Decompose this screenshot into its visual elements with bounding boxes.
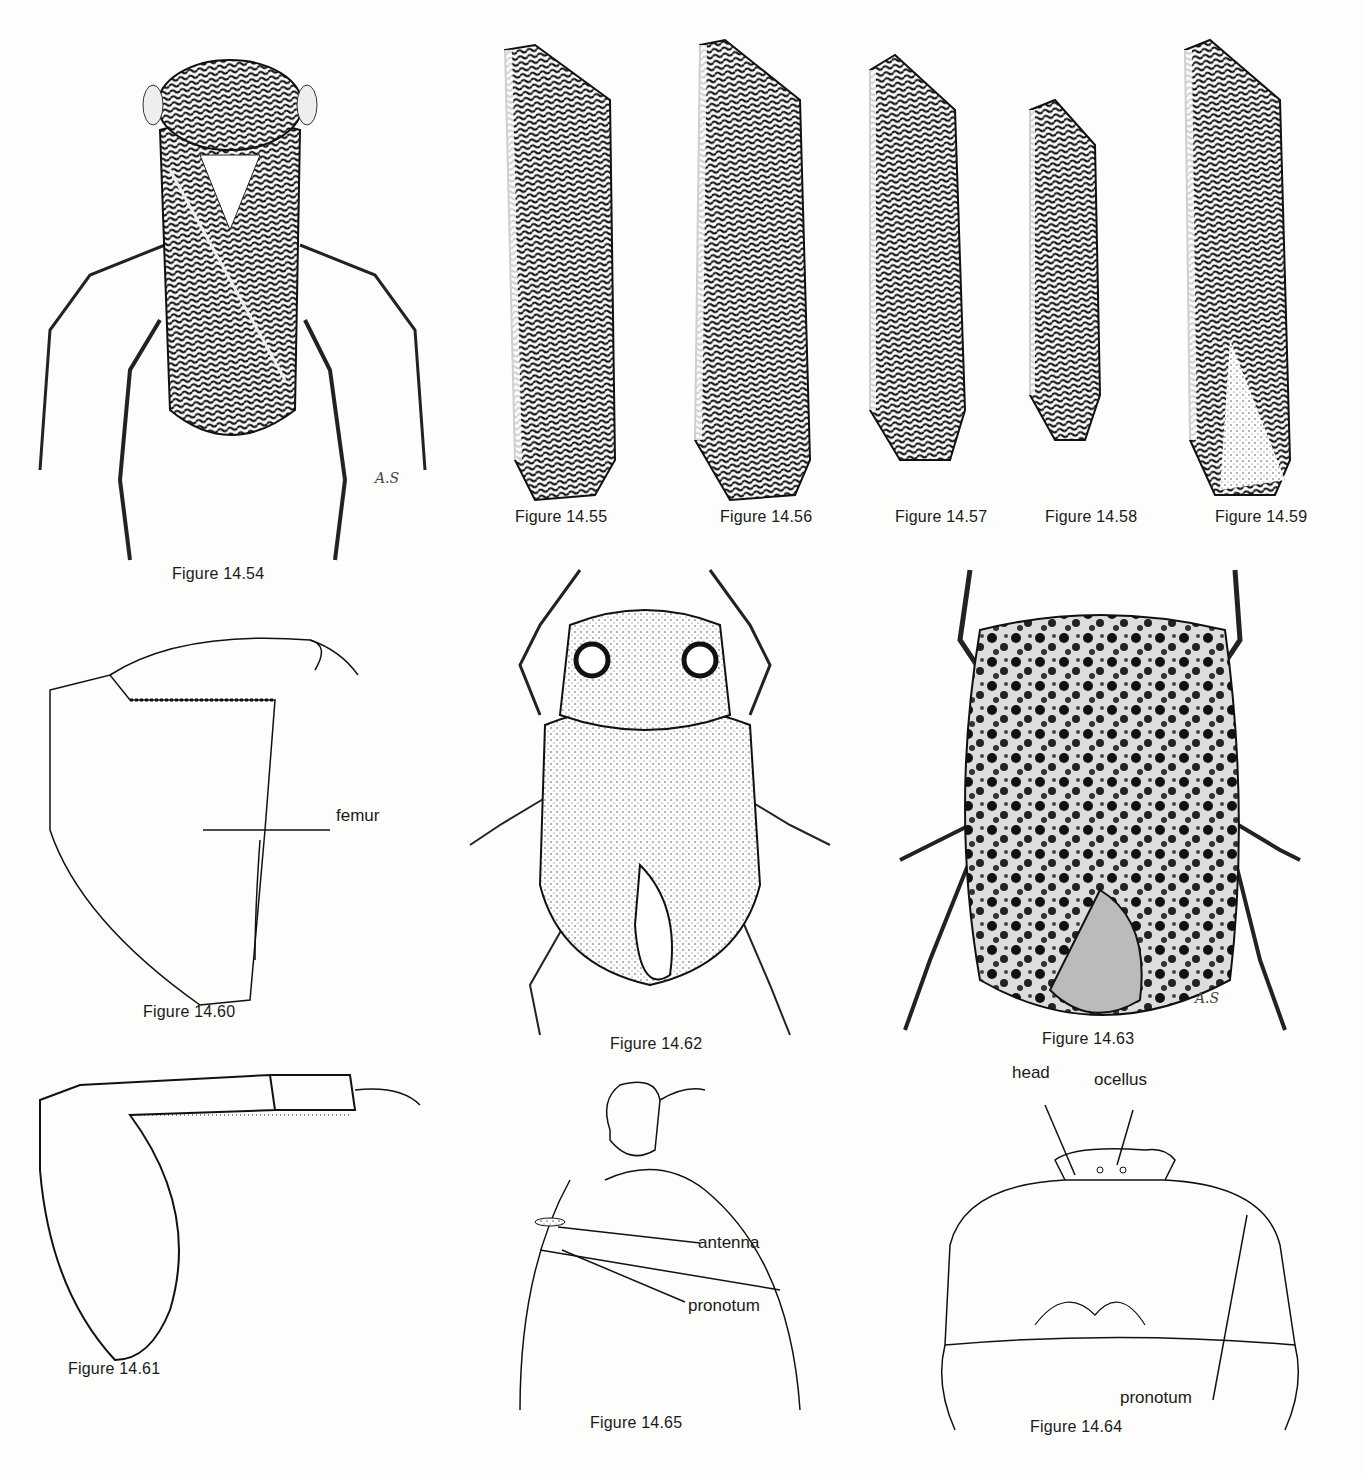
figure-caption: Figure 14.55 [515, 508, 607, 526]
figure-caption: Figure 14.65 [590, 1414, 682, 1432]
label-ocellus: ocellus [1094, 1070, 1147, 1090]
label-antenna: antenna [698, 1233, 759, 1253]
ocellus-leader-line [1117, 1110, 1133, 1165]
figure-14-60: femur Figure 14.60 [40, 630, 420, 1030]
figure-caption: Figure 14.63 [1042, 1030, 1134, 1048]
pronotum-leader-line [1213, 1215, 1247, 1400]
wing-illustration [1010, 95, 1140, 455]
wing-illustration [1170, 40, 1340, 510]
figure-caption: Figure 14.54 [172, 565, 264, 583]
head-leader-line [1045, 1105, 1075, 1175]
figure-caption: Figure 14.60 [143, 1003, 235, 1021]
figure-caption: Figure 14.56 [720, 508, 812, 526]
wing-illustration [680, 40, 840, 510]
insect-dorsal-illustration [460, 565, 850, 1035]
figure-caption: Figure 14.57 [895, 508, 987, 526]
figure-caption: Figure 14.59 [1215, 508, 1307, 526]
label-pronotum: pronotum [688, 1296, 760, 1316]
artist-signature: A.S [375, 470, 399, 486]
figure-14-58: Figure 14.58 [1010, 95, 1140, 530]
figure-caption: Figure 14.61 [68, 1360, 160, 1378]
figure-14-65: antenna pronotum Figure 14.65 [510, 1070, 810, 1440]
label-head: head [1012, 1063, 1050, 1083]
figure-14-61: Figure 14.61 [20, 1070, 440, 1380]
label-femur: femur [336, 806, 379, 826]
artist-signature: A.S [1195, 990, 1219, 1006]
wing-illustration [860, 50, 1000, 470]
foreleg-outline [20, 1070, 440, 1360]
figure-caption: Figure 14.64 [1030, 1418, 1122, 1436]
antenna-leader-line [558, 1227, 700, 1243]
figure-caption: Figure 14.62 [610, 1035, 702, 1053]
figure-14-57: Figure 14.57 [860, 50, 1000, 530]
wing-illustration [495, 40, 635, 510]
figure-caption: Figure 14.58 [1045, 508, 1137, 526]
figure-14-56: Figure 14.56 [680, 40, 840, 530]
insect-dorsal-illustration [890, 560, 1320, 1030]
figure-14-63: A.S Figure 14.63 [890, 560, 1320, 1060]
figure-14-59: Figure 14.59 [1170, 40, 1340, 530]
figure-14-64: head ocellus pronotum Figure 14.64 [925, 1085, 1315, 1455]
lateral-head-outline [510, 1070, 810, 1410]
figure-14-55: Figure 14.55 [495, 40, 635, 530]
figure-14-62: Figure 14.62 [460, 565, 850, 1065]
label-pronotum: pronotum [1120, 1388, 1192, 1408]
pronotum-leader-line [562, 1250, 685, 1302]
figure-14-54: A.S Figure 14.54 [30, 30, 450, 590]
